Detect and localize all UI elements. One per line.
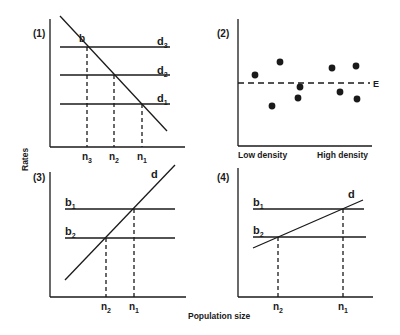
panel-4-n2-tick: n2 xyxy=(273,301,283,314)
panel-2-low-density-label: Low density xyxy=(238,150,287,160)
panel-4-label: (4) xyxy=(217,172,229,183)
panel-1-d2-label: d2 xyxy=(157,64,168,78)
panel-1-d1-label: d1 xyxy=(157,92,168,106)
y-axis-label: Rates xyxy=(20,148,30,171)
panel-3-b1-label: b1 xyxy=(65,196,76,210)
panel-1-n1-tick: n1 xyxy=(137,151,147,164)
panel-3-b2-label: b2 xyxy=(65,225,76,239)
panel-4-b2-label: b2 xyxy=(253,224,264,238)
panel-1-n3-tick: n3 xyxy=(82,151,92,164)
scatter-point xyxy=(329,65,336,72)
panel-3-n2-tick: n2 xyxy=(101,301,111,314)
scatter-point xyxy=(295,95,302,102)
population-regulation-diagram: (1) b d3 d2 d1 n3 n2 n1 (2) E Low densit… xyxy=(0,0,400,335)
panel-1-dropdown-lines xyxy=(87,47,142,147)
scatter-point xyxy=(337,89,344,96)
panel-1-d3-label: d3 xyxy=(157,35,168,49)
panel-3-death-curve xyxy=(65,165,175,280)
panel-1-curve-label: b xyxy=(79,33,85,44)
scatter-point xyxy=(252,72,259,79)
panel-4-curve-label: d xyxy=(348,188,355,200)
panel-2-equilibrium-label: E xyxy=(373,79,379,89)
panel-4-n1-tick: n1 xyxy=(338,301,348,314)
panel-1 xyxy=(50,16,185,147)
panel-1-n2-tick: n2 xyxy=(109,151,119,164)
scatter-point xyxy=(354,96,361,103)
scatter-point xyxy=(297,84,304,91)
panel-2-scatter-points xyxy=(252,59,361,110)
panel-2-high-density-label: High density xyxy=(317,150,368,160)
panel-3-n1-tick: n1 xyxy=(129,301,139,314)
panel-3-curve-label: d xyxy=(151,168,158,180)
panel-1-label: (1) xyxy=(33,28,45,39)
x-axis-label: Population size xyxy=(188,311,251,321)
scatter-point xyxy=(269,103,276,110)
scatter-point xyxy=(277,59,284,66)
panel-2-label: (2) xyxy=(217,28,229,39)
scatter-point xyxy=(353,63,360,70)
panel-4-death-curve xyxy=(253,200,363,248)
panel-3-label: (3) xyxy=(33,172,45,183)
panel-4-b1-label: b1 xyxy=(253,196,264,210)
panel-2 xyxy=(238,19,372,146)
